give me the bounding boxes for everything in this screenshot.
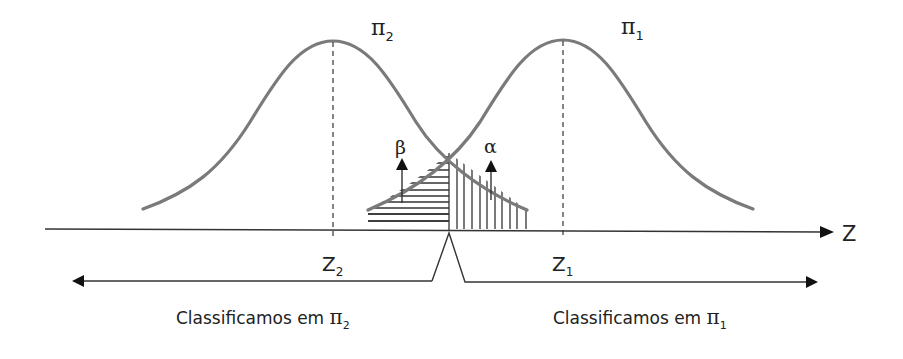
z1-label: Z1 <box>552 252 573 279</box>
pi2-density-curve <box>143 41 527 210</box>
beta-arrowhead-icon <box>396 158 408 170</box>
alpha-arrowhead-icon <box>485 160 497 172</box>
beta-label: β <box>395 136 406 158</box>
z-axis-arrowhead-icon <box>820 226 834 238</box>
pi2-label: π2 <box>371 15 394 44</box>
right-region-arrowhead-icon <box>806 276 818 288</box>
alpha-label: α <box>484 135 497 157</box>
left-region-arrowhead-icon <box>72 275 84 287</box>
z-axis <box>45 229 824 232</box>
discriminant-diagram: π2 π1 β α Z2 Z1 Z Classificamos em π2 Cl… <box>0 0 903 359</box>
left-region-caption: Classificamos em π2 <box>176 305 350 332</box>
z2-label: Z2 <box>322 252 343 279</box>
pi1-label: π1 <box>621 14 644 43</box>
right-region-caption: Classificamos em π1 <box>553 305 727 332</box>
z-axis-label: Z <box>842 222 856 246</box>
pi1-density-curve <box>368 40 753 210</box>
left-region-arrow <box>432 233 808 282</box>
